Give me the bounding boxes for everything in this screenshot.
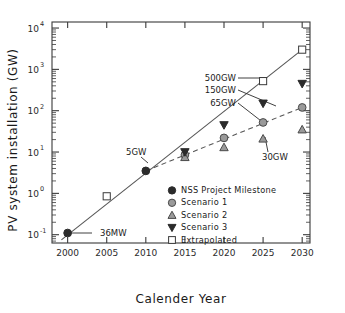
x-tick-label: 2005 bbox=[95, 248, 118, 258]
svg-text:0: 0 bbox=[40, 185, 44, 193]
leader-a150gw bbox=[238, 90, 276, 106]
y-tick-label: 10-1 bbox=[28, 227, 47, 241]
data-marker bbox=[64, 229, 72, 237]
y-tick-label: 100 bbox=[28, 185, 45, 199]
svg-text:4: 4 bbox=[40, 20, 44, 28]
svg-text:1: 1 bbox=[40, 144, 44, 152]
pv-installation-log-chart: 2000200520102015202020252030 10-11001011… bbox=[0, 0, 345, 313]
data-marker bbox=[259, 135, 267, 143]
data-marker bbox=[298, 80, 306, 88]
svg-text:2: 2 bbox=[40, 103, 44, 111]
legend-marker bbox=[168, 224, 176, 231]
svg-text:10: 10 bbox=[28, 148, 40, 158]
y-tick-label: 101 bbox=[28, 144, 45, 158]
svg-text:-1: -1 bbox=[40, 227, 46, 235]
data-marker bbox=[142, 167, 150, 175]
annotation-a36mw: 36MW bbox=[100, 228, 127, 238]
legend-label: Scenario 3 bbox=[181, 222, 227, 232]
y-axis-tick-labels: 10-1100101102103104 bbox=[28, 20, 47, 240]
svg-text:3: 3 bbox=[40, 61, 44, 69]
data-marker bbox=[103, 193, 110, 200]
annotation-a30gw: 30GW bbox=[262, 152, 288, 162]
legend-marker bbox=[168, 199, 175, 206]
chart-figure: 2000200520102015202020252030 10-11001011… bbox=[0, 0, 345, 313]
legend-item[interactable]: NSS Project Milestone bbox=[168, 185, 276, 195]
data-marker bbox=[259, 119, 267, 127]
leader-a5gw bbox=[141, 157, 148, 163]
legend-label: Scenario 1 bbox=[181, 197, 227, 207]
x-tick-label: 2000 bbox=[56, 248, 79, 258]
data-marker bbox=[259, 100, 267, 108]
legend-item[interactable]: Scenario 2 bbox=[168, 210, 227, 220]
x-tick-label: 2030 bbox=[291, 248, 314, 258]
legend-marker bbox=[168, 211, 176, 218]
y-tick-label: 104 bbox=[28, 20, 45, 34]
legend-label: NSS Project Milestone bbox=[181, 185, 276, 195]
data-marker bbox=[220, 122, 228, 130]
data-marker bbox=[298, 104, 306, 112]
y-tick-label: 103 bbox=[28, 61, 45, 75]
x-axis-tick-labels: 2000200520102015202020252030 bbox=[56, 248, 314, 258]
x-axis-title: Calender Year bbox=[135, 292, 226, 306]
legend-label: Scenario 2 bbox=[181, 210, 227, 220]
data-marker bbox=[260, 78, 267, 85]
data-marker bbox=[298, 125, 306, 133]
x-tick-label: 2020 bbox=[213, 248, 236, 258]
annotation-a150gw: 150GW bbox=[205, 85, 237, 95]
legend-item[interactable]: Scenario 3 bbox=[168, 222, 227, 232]
x-tick-label: 2010 bbox=[134, 248, 157, 258]
svg-text:10: 10 bbox=[28, 65, 40, 75]
chart-legend: NSS Project MilestoneScenario 1Scenario … bbox=[168, 185, 276, 245]
annotation-a500gw: 500GW bbox=[205, 73, 237, 83]
y-axis-title: PV system installation (GW) bbox=[6, 48, 20, 231]
x-tick-label: 2025 bbox=[252, 248, 275, 258]
annotation-leader-lines bbox=[72, 78, 276, 233]
data-marker bbox=[299, 46, 306, 53]
legend-marker bbox=[168, 187, 175, 194]
svg-text:10: 10 bbox=[28, 230, 40, 240]
annotation-a5gw: 5GW bbox=[126, 147, 147, 157]
svg-text:10: 10 bbox=[28, 24, 40, 34]
svg-text:10: 10 bbox=[28, 189, 40, 199]
legend-marker bbox=[169, 237, 176, 244]
svg-text:10: 10 bbox=[28, 106, 40, 116]
legend-label: Extrapolated bbox=[181, 235, 237, 245]
data-marker bbox=[220, 134, 228, 142]
x-tick-label: 2015 bbox=[173, 248, 196, 258]
y-tick-label: 102 bbox=[28, 103, 45, 117]
data-marker bbox=[220, 143, 228, 151]
annotation-a65gw: 65GW bbox=[210, 98, 236, 108]
legend-item[interactable]: Scenario 1 bbox=[168, 197, 227, 207]
